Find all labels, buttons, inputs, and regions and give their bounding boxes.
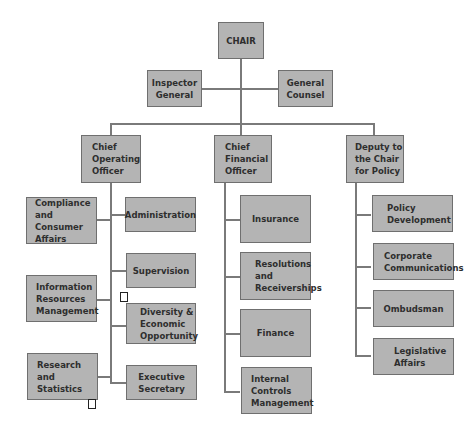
org-box-administration: Administration bbox=[125, 197, 196, 232]
connector-deputy-corporate bbox=[355, 266, 371, 268]
connector-deputy-policy bbox=[355, 214, 371, 216]
connector-deputy-ombudsman bbox=[355, 307, 371, 309]
org-box-chair: CHAIR bbox=[218, 22, 264, 59]
connector-chair-trunk bbox=[240, 58, 242, 124]
connector-deputy-legislative bbox=[355, 355, 371, 357]
org-box-compliance: Compliance and Consumer Affairs bbox=[26, 197, 97, 244]
connector-cfo-finance bbox=[224, 333, 240, 335]
org-box-information-resources: Information Resources Management bbox=[26, 275, 97, 322]
connector-coo-diversity bbox=[110, 325, 126, 327]
org-box-ombudsman: Ombudsman bbox=[373, 290, 454, 327]
square-marker bbox=[88, 399, 96, 409]
connector-coo-administration bbox=[110, 214, 126, 216]
org-box-insurance: Insurance bbox=[240, 195, 311, 243]
connector-coo-supervision bbox=[110, 270, 126, 272]
org-box-corporate-communications: Corporate Communications bbox=[373, 243, 454, 280]
org-box-legislative-affairs: Legislative Affairs bbox=[373, 338, 454, 375]
org-box-coo: Chief Operating Officer bbox=[81, 135, 141, 183]
org-box-research-statistics: Research and Statistics bbox=[27, 353, 98, 400]
org-box-finance: Finance bbox=[240, 309, 311, 357]
connector-divisions-bar bbox=[110, 123, 374, 125]
org-box-deputy-policy: Deputy to the Chair for Policy bbox=[346, 135, 404, 183]
connector-deputy-spine bbox=[355, 182, 357, 356]
connector-cfo-drop bbox=[240, 123, 242, 135]
connector-coo-irm bbox=[97, 299, 111, 301]
connector-coo-compliance bbox=[97, 219, 111, 221]
connector-coo-spine bbox=[110, 182, 112, 382]
connector-coo-research bbox=[97, 376, 111, 378]
connector-cfo-resolutions bbox=[224, 276, 240, 278]
connector-cfo-insurance bbox=[224, 219, 240, 221]
connector-coo-drop bbox=[110, 123, 112, 135]
org-box-general-counsel: General Counsel bbox=[278, 70, 333, 107]
connector-cfo-internal bbox=[224, 391, 240, 393]
connector-deputy-drop bbox=[373, 123, 375, 135]
connector-coo-executive bbox=[110, 382, 126, 384]
org-box-resolutions: Resolutions and Receiverships bbox=[240, 252, 311, 300]
connector-staff bbox=[201, 88, 278, 90]
square-marker bbox=[120, 292, 128, 302]
connector-cfo-spine bbox=[224, 182, 226, 392]
org-box-policy-development: Policy Development bbox=[372, 195, 453, 232]
org-box-cfo: Chief Financial Officer bbox=[214, 135, 272, 183]
org-box-diversity: Diversity & Economic Opportunity bbox=[126, 303, 196, 344]
org-box-supervision: Supervision bbox=[126, 253, 196, 288]
org-box-internal-controls: Internal Controls Management bbox=[241, 367, 312, 414]
org-box-executive-secretary: Executive Secretary bbox=[126, 365, 197, 400]
org-box-inspector-general: Inspector General bbox=[147, 70, 202, 107]
